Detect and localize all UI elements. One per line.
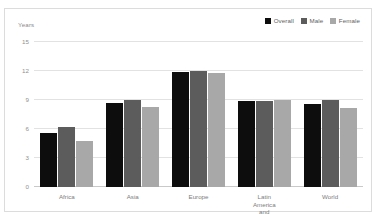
bar-group: Latin America and Caribbean [231,42,297,187]
y-axis-tick-label: 12 [22,67,29,74]
chart-legend: OverallMaleFemale [265,17,360,24]
x-axis-category-label: Europe [189,193,209,201]
y-axis-tick-label: 0 [26,183,29,190]
legend-item-label: Overall [274,17,294,24]
bar[interactable] [124,100,141,187]
x-axis-category-label: Africa [59,193,75,201]
y-axis-tick-label: 9 [26,96,29,103]
x-axis-category-label: Asia [127,193,139,201]
bar-group: Asia [100,42,166,187]
bar[interactable] [58,127,75,187]
bar[interactable] [40,133,57,187]
bar[interactable] [256,101,273,187]
bar-group: Africa [34,42,100,187]
legend-item[interactable]: Female [330,17,360,24]
y-axis-tick-label: 15 [22,38,29,45]
x-axis-category-label: Latin America and Caribbean [248,193,281,214]
y-axis-tick-label: 3 [26,154,29,161]
bar[interactable] [106,103,123,187]
legend-item-label: Male [309,17,323,24]
bar[interactable] [172,72,189,187]
plot-area: 03691215 AfricaAsiaEuropeLatin America a… [34,42,363,187]
bar-group: World [297,42,363,187]
bar[interactable] [340,108,357,187]
legend-swatch-male [301,18,307,24]
bar-group: Europe [166,42,232,187]
bar[interactable] [274,100,291,187]
bar-chart: Years OverallMaleFemale 03691215 AfricaA… [0,0,376,214]
bar[interactable] [238,101,255,187]
bar[interactable] [322,100,339,187]
legend-swatch-female [330,18,336,24]
legend-item-label: Female [339,17,360,24]
bar-groups: AfricaAsiaEuropeLatin America and Caribb… [34,42,363,187]
x-axis-category-label: World [322,193,338,201]
y-axis-tick-label: 6 [26,125,29,132]
legend-item[interactable]: Overall [265,17,294,24]
y-axis-title: Years [18,21,34,28]
bar[interactable] [208,73,225,187]
legend-item[interactable]: Male [301,17,323,24]
bar[interactable] [304,104,321,187]
bar[interactable] [190,71,207,187]
bar[interactable] [76,141,93,187]
legend-swatch-overall [265,18,271,24]
bar[interactable] [142,107,159,187]
